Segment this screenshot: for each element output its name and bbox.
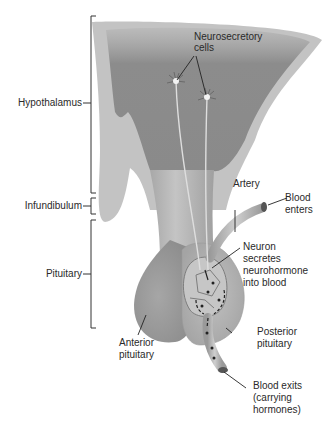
label-blood-enters-2: enters <box>285 204 313 215</box>
label-neuron-1: Neuron <box>243 241 276 252</box>
pituitary-diagram: Hypothalamus Infundibulum Pituitary Neur… <box>0 0 330 421</box>
label-blood-enters-1: Blood <box>285 192 311 203</box>
label-posterior-1: Posterior <box>257 326 297 337</box>
label-neuron-4: into blood <box>243 277 286 288</box>
artery-opening <box>261 202 267 212</box>
label-neuron-3: neurohormone <box>243 265 308 276</box>
label-artery: Artery <box>233 178 260 189</box>
label-infundibulum: Infundibulum <box>6 200 82 211</box>
label-anterior-1: Anterior <box>119 337 154 348</box>
label-neurosecretory: Neurosecretory <box>194 31 262 42</box>
label-exits-1: Blood exits <box>253 380 302 391</box>
label-pituitary: Pituitary <box>6 268 82 279</box>
vein-opening <box>218 367 228 373</box>
label-exits-3: hormones) <box>253 404 301 415</box>
capillary-network <box>183 257 227 316</box>
label-cells: cells <box>194 42 214 53</box>
label-anterior-2: pituitary <box>119 349 154 360</box>
label-hypothalamus: Hypothalamus <box>6 97 82 108</box>
label-posterior-2: pituitary <box>257 338 292 349</box>
label-exits-2: (carrying <box>253 392 292 403</box>
region-brackets <box>83 16 96 328</box>
label-neuron-2: secretes <box>243 253 281 264</box>
